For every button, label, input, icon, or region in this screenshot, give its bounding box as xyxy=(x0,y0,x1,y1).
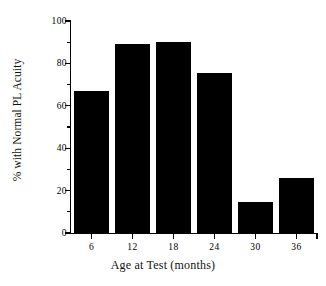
y-tick-label-40: 40 xyxy=(57,143,67,153)
x-tick-label-30: 30 xyxy=(250,242,260,252)
x-tick-label-36: 36 xyxy=(291,242,301,252)
bar-12-months xyxy=(115,44,150,233)
y-minor-tick-70 xyxy=(67,84,71,85)
bar-18-months xyxy=(156,42,191,233)
y-tick-label-100: 100 xyxy=(52,16,67,26)
y-minor-tick-30 xyxy=(67,169,71,170)
x-tick-12 xyxy=(132,234,133,239)
plot-area: 020406080100 61218243036 xyxy=(71,21,317,233)
x-tick-36 xyxy=(296,234,297,239)
x-tick-30 xyxy=(255,234,256,239)
x-tick-6 xyxy=(91,234,92,239)
y-tick-label-60: 60 xyxy=(57,101,67,111)
bar-36-months xyxy=(279,178,314,233)
x-tick-label-24: 24 xyxy=(209,242,219,252)
x-axis-spine xyxy=(70,233,318,234)
y-minor-tick-90 xyxy=(67,42,71,43)
x-tick-24 xyxy=(214,234,215,239)
y-axis-title: % with Normal PL Acuity xyxy=(11,59,23,182)
bar-30-months xyxy=(238,202,273,233)
y-tick-label-80: 80 xyxy=(57,58,67,68)
bar-6-months xyxy=(74,91,109,233)
x-tick-18 xyxy=(173,234,174,239)
y-tick-label-0: 0 xyxy=(62,228,67,238)
bar-24-months xyxy=(197,73,232,233)
y-axis-title-container: % with Normal PL Acuity xyxy=(0,0,34,240)
y-tick-label-20: 20 xyxy=(57,186,67,196)
x-tick-label-12: 12 xyxy=(127,242,137,252)
bar-chart-figure: % with Normal PL Acuity 020406080100 612… xyxy=(0,0,326,286)
x-tick-label-18: 18 xyxy=(168,242,178,252)
y-minor-tick-10 xyxy=(67,211,71,212)
y-minor-tick-50 xyxy=(67,126,71,127)
x-axis-end-tick xyxy=(316,234,317,239)
x-axis-title: Age at Test (months) xyxy=(0,258,326,273)
x-tick-label-6: 6 xyxy=(89,242,94,252)
